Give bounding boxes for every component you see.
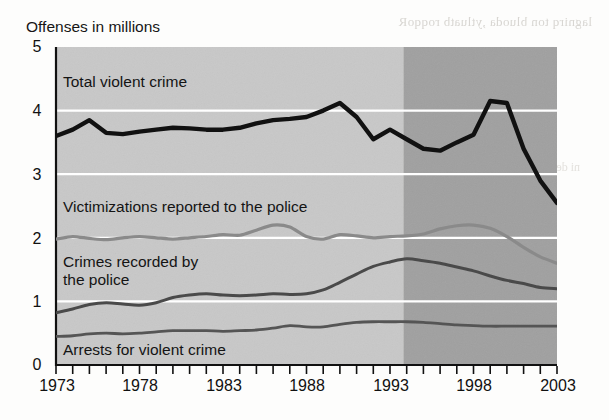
series-label-total-violent-crime: Total violent crime [63,73,187,90]
x-tick-1983: 1983 [196,378,252,394]
series-label-crimes-recorded-line1: Crimes recorded by [63,253,198,270]
x-axis-ticks [56,366,557,374]
x-tick-1978: 1978 [112,378,168,394]
x-tick-1973: 1973 [29,378,85,394]
x-tick-2003: 2003 [530,378,586,394]
x-tick-1998: 1998 [446,378,502,394]
x-tick-1988: 1988 [279,378,335,394]
x-tick-1993: 1993 [363,378,419,394]
figure-root: lagnirq ton bluoda ,ytluatb roqqoR ni de… [0,0,609,420]
series-label-victimizations: Victimizations reported to the police [63,198,307,215]
series-label-arrests: Arrests for violent crime [63,341,226,358]
series-label-crimes-recorded-line2: the police [63,271,129,288]
